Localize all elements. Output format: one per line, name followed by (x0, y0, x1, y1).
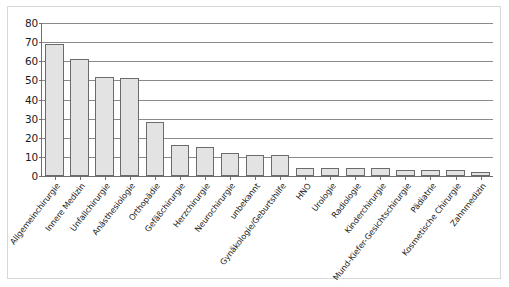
bar[interactable] (196, 147, 215, 176)
x-label-slot: HNO (292, 179, 317, 279)
bar-slot (243, 23, 268, 176)
bar-slot (67, 23, 92, 176)
bar[interactable] (321, 168, 340, 176)
bar-slot (343, 23, 368, 176)
y-tick-label: 60 (25, 55, 38, 67)
bar-slot (217, 23, 242, 176)
y-tick-label: 0 (32, 170, 38, 182)
bar[interactable] (171, 145, 190, 176)
y-tick-label: 20 (25, 132, 38, 144)
bar-slot (468, 23, 493, 176)
bar-slot (318, 23, 343, 176)
bar-slot (42, 23, 67, 176)
bar-slot (368, 23, 393, 176)
chart-frame: 01020304050607080 AllgemeinchirurgieInne… (7, 6, 501, 279)
y-tick-label: 70 (25, 36, 38, 48)
bar-slot (418, 23, 443, 176)
bar-slot (293, 23, 318, 176)
x-label-slot: Neurochirurgie (217, 179, 242, 279)
bar-slot (443, 23, 468, 176)
bar-slot (393, 23, 418, 176)
x-axis-labels: AllgemeinchirurgieInnere MedizinUnfallch… (41, 179, 493, 279)
y-tick-mark (39, 176, 43, 177)
bar[interactable] (271, 155, 290, 176)
y-tick-label: 10 (25, 151, 38, 163)
x-label-slot: Anästhesiologie (116, 179, 141, 279)
bar-slot (92, 23, 117, 176)
y-tick-label: 80 (25, 17, 38, 29)
bar-series (42, 23, 493, 176)
bar[interactable] (95, 77, 114, 176)
bar[interactable] (45, 44, 64, 176)
bar-slot (268, 23, 293, 176)
x-label-slot: Zahnmedizin (468, 179, 493, 279)
bar-slot (142, 23, 167, 176)
bar-slot (117, 23, 142, 176)
x-tick-label: HNO (293, 181, 312, 202)
bar[interactable] (120, 78, 139, 176)
bar[interactable] (221, 153, 240, 176)
bar[interactable] (246, 155, 265, 176)
bar[interactable] (146, 122, 165, 176)
bar[interactable] (70, 59, 89, 176)
bar-slot (167, 23, 192, 176)
y-tick-label: 50 (25, 74, 38, 86)
x-label-slot: Gynäkologie/Geburtshilfe (267, 179, 292, 279)
y-tick-label: 30 (25, 113, 38, 125)
plot-area: 01020304050607080 (41, 23, 493, 177)
x-label-slot: Mund-Kiefer-Gesichtschirurgie (393, 179, 418, 279)
bar-slot (192, 23, 217, 176)
bar[interactable] (296, 168, 315, 176)
x-label-slot: Kosmetische Chirurgie (443, 179, 468, 279)
bar[interactable] (346, 168, 365, 176)
y-tick-label: 40 (25, 94, 38, 106)
bar[interactable] (371, 168, 390, 176)
